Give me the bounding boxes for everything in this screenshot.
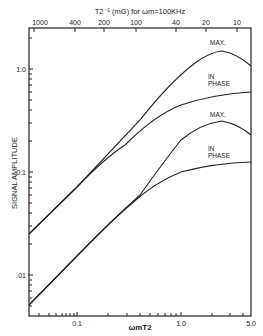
svg-text:0.1: 0.1 xyxy=(72,320,82,327)
svg-text:200: 200 xyxy=(98,19,110,26)
svg-text:10: 10 xyxy=(233,19,241,26)
top-axis-title: T2⁻¹ (mG) for ωm=100KHz xyxy=(95,7,186,16)
annotation-phase-lower: PHASE xyxy=(208,152,231,159)
annotation-in-lower: IN xyxy=(208,145,215,152)
svg-text:400: 400 xyxy=(69,19,81,26)
top-axis-tick-labels: 1000 400 200 100 40 20 10 xyxy=(32,19,241,26)
svg-text:5.0: 5.0 xyxy=(246,320,256,327)
curve-annotations: MAX. IN PHASE MAX. IN PHASE xyxy=(208,39,231,159)
svg-text:100: 100 xyxy=(130,19,142,26)
svg-text:20: 20 xyxy=(202,19,210,26)
svg-text:40: 40 xyxy=(172,19,180,26)
data-curves xyxy=(29,51,251,305)
curve-max-lower xyxy=(29,121,251,305)
plot-frame xyxy=(29,28,251,316)
svg-text:1000: 1000 xyxy=(32,19,48,26)
annotation-in-upper: IN xyxy=(208,73,215,80)
x-axis-title: ωmT2 xyxy=(128,323,152,332)
svg-text:1.0: 1.0 xyxy=(176,320,186,327)
x-axis-tick-labels: 0.1 1.0 5.0 xyxy=(72,320,256,327)
annotation-max-upper: MAX. xyxy=(210,39,226,46)
y-axis-title: SIGNAL AMPLITUDE xyxy=(10,137,19,209)
curve-max-upper xyxy=(29,51,251,234)
svg-text:.01: .01 xyxy=(16,272,26,279)
annotation-max-lower: MAX. xyxy=(210,111,226,118)
chart-canvas: MAX. IN PHASE MAX. IN PHASE T2⁻¹ (mG) fo… xyxy=(0,0,263,336)
annotation-phase-upper: PHASE xyxy=(208,80,231,87)
curve-in-phase-lower xyxy=(29,162,251,305)
svg-text:1.0: 1.0 xyxy=(16,66,26,73)
